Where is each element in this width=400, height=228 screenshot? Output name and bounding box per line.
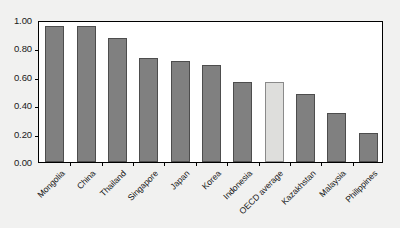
bar bbox=[77, 26, 96, 162]
y-axis-tick-label: 0.00 bbox=[14, 158, 32, 168]
x-axis-category-label: Japan bbox=[169, 169, 191, 191]
y-axis-tick-mark bbox=[35, 136, 39, 137]
bar bbox=[265, 82, 284, 162]
bar bbox=[139, 58, 158, 162]
x-axis-tick-mark bbox=[290, 162, 291, 166]
x-axis-category-label: Kazakhstan bbox=[280, 169, 317, 206]
x-axis-tick-mark bbox=[102, 162, 103, 166]
x-axis-tick-mark bbox=[196, 162, 197, 166]
y-axis-tick-label: 0.80 bbox=[14, 45, 32, 55]
plot-area bbox=[38, 21, 383, 163]
y-axis-tick-label: 0.20 bbox=[14, 130, 32, 140]
x-axis-tick-mark bbox=[164, 162, 165, 166]
y-axis-tick-label: 0.40 bbox=[14, 101, 32, 111]
x-axis-category-label: Korea bbox=[200, 169, 222, 191]
bar-chart: 1.000.800.600.400.200.00 MongoliaChinaTh… bbox=[0, 0, 400, 228]
x-axis-tick-mark bbox=[133, 162, 134, 166]
x-axis-category-label: Singapore bbox=[126, 169, 159, 202]
bar bbox=[202, 65, 221, 162]
x-axis-category-label: China bbox=[76, 169, 98, 191]
bar bbox=[171, 61, 190, 162]
bar bbox=[359, 133, 378, 162]
x-axis-tick-mark bbox=[70, 162, 71, 166]
y-axis: 1.000.800.600.400.200.00 bbox=[0, 0, 36, 228]
x-axis-category-label: Thailand bbox=[99, 169, 128, 198]
bar bbox=[327, 113, 346, 162]
x-axis-category-label: Indonesia bbox=[222, 169, 254, 201]
x-axis-tick-mark bbox=[321, 162, 322, 166]
x-axis-category-label: Philippines bbox=[344, 169, 379, 204]
x-axis-category-label: Mongolia bbox=[36, 169, 66, 199]
y-axis-tick-mark bbox=[35, 79, 39, 80]
bar bbox=[108, 38, 127, 162]
x-axis-tick-mark bbox=[227, 162, 228, 166]
bar bbox=[233, 82, 252, 162]
x-axis-category-label: OECD average bbox=[238, 169, 285, 216]
y-axis-tick-mark bbox=[35, 50, 39, 51]
x-axis-tick-mark bbox=[353, 162, 354, 166]
x-axis-tick-mark bbox=[259, 162, 260, 166]
x-axis-category-label: Malaysia bbox=[318, 169, 348, 199]
bar bbox=[296, 94, 315, 162]
y-axis-tick-mark bbox=[35, 107, 39, 108]
y-axis-tick-label: 0.60 bbox=[14, 73, 32, 83]
bar bbox=[45, 26, 64, 162]
y-axis-tick-label: 1.00 bbox=[14, 16, 32, 26]
